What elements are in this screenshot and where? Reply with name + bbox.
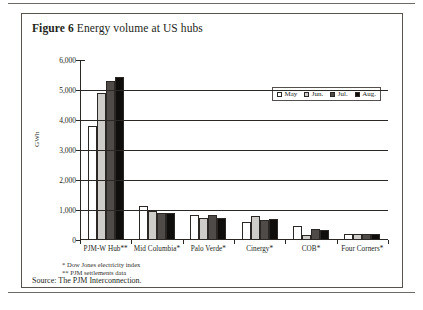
legend-swatch-icon [355, 92, 360, 97]
bar [97, 93, 106, 240]
gridline [80, 120, 388, 121]
x-tick-label: Mid Columbia* [134, 245, 180, 253]
x-tick-label: Cinergy* [246, 245, 273, 253]
bar [217, 218, 226, 240]
x-tick-mark [388, 240, 389, 244]
y-axis-tick-labels: 01,0002,0003,0004,0005,0006,000 [40, 14, 76, 289]
x-axis-tick-labels: PJM-W Hub**Mid Columbia*Palo Verde*Ciner… [80, 245, 388, 259]
bar [115, 77, 124, 240]
legend-swatch-icon [304, 92, 309, 97]
bar [251, 216, 260, 240]
gridline [80, 180, 388, 181]
bar [208, 215, 217, 240]
gridline [80, 150, 388, 151]
y-tick-label: 2,000 [59, 176, 76, 185]
bar [344, 234, 353, 240]
bar [166, 213, 175, 240]
page-rule-bottom [8, 292, 415, 293]
bar [157, 213, 166, 240]
bar [190, 215, 199, 241]
bar [371, 234, 380, 240]
x-tick-mark [131, 240, 132, 244]
bar [242, 222, 251, 240]
y-tick-label: 3,000 [59, 146, 76, 155]
y-tick-label: 4,000 [59, 116, 76, 125]
bar [311, 229, 320, 240]
x-tick-label: PJM-W Hub** [84, 245, 128, 253]
y-tick-label: 1,000 [59, 206, 76, 215]
legend-item: Aug. [355, 90, 376, 98]
gridline [80, 90, 388, 91]
legend-label: Jun. [312, 90, 323, 98]
figure-source: Source: The PJM Interconnection. [32, 276, 142, 285]
legend-label: Jul. [338, 90, 348, 98]
x-tick-mark [183, 240, 184, 244]
bar [260, 220, 269, 240]
bar [302, 235, 311, 240]
legend-item: May [277, 90, 297, 98]
x-tick-mark [234, 240, 235, 244]
gridline [80, 210, 388, 211]
bar [353, 234, 362, 240]
bar [199, 218, 208, 240]
gridline-top [80, 60, 85, 61]
y-tick-label: 6,000 [59, 56, 76, 65]
x-tick-label: Palo Verde* [191, 245, 226, 253]
bar [269, 219, 278, 240]
page-rule-top [8, 3, 415, 4]
bar [139, 206, 148, 240]
legend-item: Jul. [330, 90, 347, 98]
x-tick-label: Four Corners* [341, 245, 383, 253]
bar [293, 226, 302, 240]
footnote: * Dow Jones electricity index [62, 261, 140, 269]
y-tick-label: 5,000 [59, 86, 76, 95]
bar [320, 230, 329, 240]
legend-swatch-icon [277, 92, 282, 97]
bar [362, 234, 371, 240]
legend-label: May [285, 90, 298, 98]
bar [106, 81, 115, 240]
legend-label: Aug. [362, 90, 376, 98]
figure-container: Figure 6 Energy volume at US hubs GWh 01… [21, 13, 403, 288]
legend-swatch-icon [330, 92, 335, 97]
x-tick-mark [337, 240, 338, 244]
chart-plot-area: GWh 01,0002,0003,0004,0005,0006,000 PJM-… [22, 14, 404, 289]
figure-footnotes: * Dow Jones electricity index** PJM sett… [62, 261, 140, 276]
bar [148, 211, 157, 240]
x-tick-mark [80, 240, 81, 244]
x-tick-label: COB* [302, 245, 321, 253]
bar [88, 126, 97, 240]
x-tick-mark [285, 240, 286, 244]
legend-item: Jun. [304, 90, 323, 98]
